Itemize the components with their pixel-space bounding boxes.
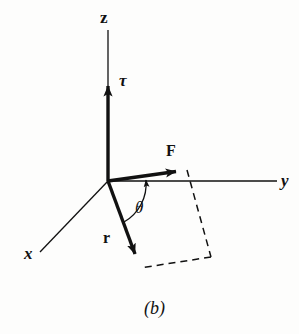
dashed-parallelogram bbox=[140, 170, 211, 268]
axis-label-x: x bbox=[24, 245, 33, 262]
axis-label-z: z bbox=[100, 9, 108, 26]
vector-force bbox=[108, 172, 176, 182]
vector-label-force: F bbox=[166, 143, 176, 159]
vector-label-position: r bbox=[103, 230, 110, 246]
axis-x bbox=[40, 181, 108, 252]
diagram-canvas bbox=[0, 0, 299, 334]
angle-label-theta: θ bbox=[135, 199, 143, 216]
torque-vector-diagram: z y x τ F r θ (b) bbox=[0, 0, 299, 334]
figure-caption: (b) bbox=[144, 299, 165, 317]
axis-label-y: y bbox=[281, 172, 289, 189]
vector-label-torque: τ bbox=[119, 72, 127, 89]
